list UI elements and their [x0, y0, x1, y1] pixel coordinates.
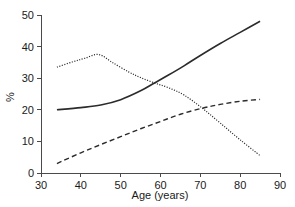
y-tick-label: 20 — [22, 104, 34, 116]
x-tick-label: 80 — [234, 179, 246, 191]
series-line-dashed — [57, 99, 260, 163]
series-layer — [57, 21, 260, 163]
y-tick-label: 40 — [22, 41, 34, 53]
series-line-dotted — [57, 54, 260, 155]
series-line-solid — [57, 21, 260, 109]
x-tick-label: 50 — [115, 179, 127, 191]
y-tick-label: 10 — [22, 135, 34, 147]
x-tick-label: 90 — [274, 179, 286, 191]
y-axis-title: % — [4, 92, 16, 102]
y-axis: 01020304050 — [22, 9, 41, 179]
line-chart: 01020304050 30405060708090 Age (years) % — [0, 0, 295, 207]
x-tick-label: 40 — [75, 179, 87, 191]
x-tick-label: 70 — [194, 179, 206, 191]
y-tick-label: 50 — [22, 9, 34, 21]
x-tick-label: 30 — [35, 179, 47, 191]
y-tick-label: 30 — [22, 72, 34, 84]
y-tick-label: 0 — [28, 167, 34, 179]
chart-plot-area: 01020304050 30405060708090 Age (years) % — [0, 0, 295, 207]
x-axis-title: Age (years) — [132, 189, 189, 201]
